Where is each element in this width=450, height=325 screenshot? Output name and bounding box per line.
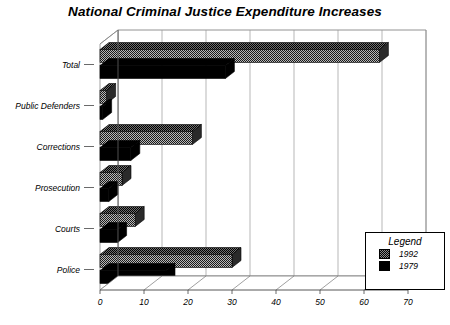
x-axis-tick-40: 40 bbox=[271, 297, 280, 307]
x-axis-tick-50: 50 bbox=[315, 297, 324, 307]
legend-label-1979: 1979 bbox=[399, 261, 418, 271]
legend-swatch-icon-1979 bbox=[379, 261, 390, 271]
x-axis-tick-0: 0 bbox=[98, 297, 103, 307]
legend-title: Legend bbox=[366, 236, 444, 247]
x-axis-tick-60: 60 bbox=[359, 297, 368, 307]
y-axis-label-courts: Courts bbox=[0, 224, 80, 234]
x-axis-tick-30: 30 bbox=[227, 297, 236, 307]
y-axis-label-prosecution: Prosecution bbox=[0, 183, 80, 193]
y-axis-label-public-defenders: Public Defenders bbox=[0, 101, 80, 111]
y-axis-label-police: Police bbox=[0, 265, 80, 275]
x-axis-tick-70: 70 bbox=[403, 297, 412, 307]
legend-item-1979: 1979 bbox=[379, 261, 444, 271]
y-axis-label-corrections: Corrections bbox=[0, 142, 80, 152]
chart-legend: Legend 1992 1979 bbox=[365, 232, 445, 290]
y-axis-label-total: Total bbox=[0, 60, 80, 70]
legend-label-1992: 1992 bbox=[399, 249, 418, 259]
chart-container: National Criminal Justice Expenditure In… bbox=[0, 0, 450, 325]
legend-item-1992: 1992 bbox=[379, 249, 444, 259]
legend-swatch-icon-1992 bbox=[379, 249, 390, 259]
x-axis-tick-10: 10 bbox=[139, 297, 148, 307]
x-axis-tick-20: 20 bbox=[183, 297, 192, 307]
